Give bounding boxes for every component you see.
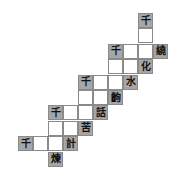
clue-cell: 化: [138, 59, 153, 74]
clue-cell: 水: [123, 75, 138, 90]
answer-cell[interactable]: [108, 59, 123, 74]
answer-cell[interactable]: [63, 105, 78, 120]
clue-cell: 千: [138, 13, 153, 28]
answer-cell[interactable]: [48, 121, 63, 136]
answer-cell[interactable]: [138, 44, 153, 59]
clue-cell: 千: [78, 75, 93, 90]
answer-cell[interactable]: [138, 28, 153, 43]
answer-cell[interactable]: [63, 121, 78, 136]
answer-cell[interactable]: [123, 44, 138, 59]
clue-cell: 計: [63, 136, 78, 151]
clue-cell: 千: [18, 136, 33, 151]
clue-cell: 苦: [78, 121, 93, 136]
clue-cell: 話: [93, 105, 108, 120]
answer-cell[interactable]: [33, 136, 48, 151]
answer-cell[interactable]: [93, 75, 108, 90]
answer-cell[interactable]: [108, 75, 123, 90]
answer-cell[interactable]: [48, 136, 63, 151]
answer-cell[interactable]: [78, 90, 93, 105]
answer-cell[interactable]: [93, 90, 108, 105]
clue-cell: 千: [108, 44, 123, 59]
clue-cell: 齣: [108, 90, 123, 105]
answer-cell[interactable]: [78, 105, 93, 120]
clue-cell: 繞: [153, 44, 168, 59]
answer-cell[interactable]: [123, 59, 138, 74]
clue-cell: 千: [48, 105, 63, 120]
clue-cell: 煉: [48, 152, 63, 167]
